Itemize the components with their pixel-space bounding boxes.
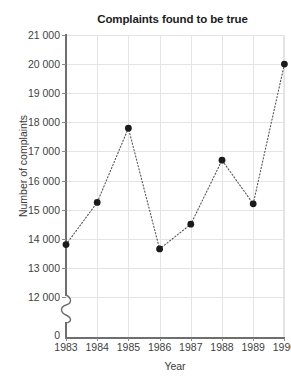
y-tick-mark	[62, 151, 66, 152]
chart-container: Complaints found to be true 1983: 138001…	[0, 0, 291, 387]
y-tick-label-text: 15 000	[28, 205, 60, 215]
x-tick-label: 1983	[54, 341, 77, 353]
x-tick-label: 1989	[242, 341, 265, 353]
x-tick-label: 1988	[210, 341, 233, 353]
y-tick-label-text: 12 000	[28, 292, 60, 302]
data-point-marker[interactable]: 1986: 13650	[156, 246, 163, 253]
data-point-marker[interactable]: 1988: 16700	[219, 157, 226, 164]
x-tick-label: 1985	[117, 341, 140, 353]
y-axis-title: Number of complaints	[17, 91, 29, 241]
y-tick-mark	[62, 239, 66, 240]
y-tick-mark	[62, 297, 66, 298]
y-tick-label-text: 13 000	[28, 263, 60, 273]
x-tick-label: 1990	[273, 341, 291, 353]
y-tick-mark	[62, 268, 66, 269]
y-tick-label-text: 17 000	[28, 146, 60, 156]
y-tick-mark	[62, 93, 66, 94]
y-tick-mark	[62, 122, 66, 123]
data-point-marker[interactable]: 1987: 14500	[187, 221, 194, 228]
y-tick-label-text: 14 000	[28, 234, 60, 244]
x-axis-title: Year	[66, 360, 284, 372]
x-tick-label: 1986	[148, 341, 171, 353]
y-tick-mark	[62, 64, 66, 65]
data-point-marker[interactable]: 1984: 15250	[94, 199, 101, 206]
y-tick-label-zero-text: 0	[54, 330, 60, 340]
y-tick-label-text: 19 000	[28, 88, 60, 98]
y-tick-mark	[62, 181, 66, 182]
y-tick-label-text: 21 000	[28, 30, 60, 40]
y-tick-label-text: 20 000	[28, 59, 60, 69]
data-point-marker[interactable]: 1985: 17800	[125, 125, 132, 132]
x-tick-label: 1984	[86, 341, 109, 353]
x-tick-label: 1987	[179, 341, 202, 353]
y-tick-label-text: 16 000	[28, 176, 60, 186]
y-tick-mark	[62, 35, 66, 36]
data-point-marker[interactable]: 1983: 13800	[63, 241, 70, 248]
y-tick-label-text: 18 000	[28, 117, 60, 127]
y-tick-mark	[62, 210, 66, 211]
series-line	[66, 64, 284, 249]
data-point-marker[interactable]: 1989: 15200	[250, 200, 257, 207]
data-point-marker[interactable]: 1990: 20000	[281, 61, 288, 68]
